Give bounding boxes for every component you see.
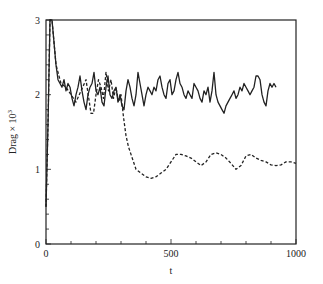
- x-axis-title: t: [170, 265, 173, 276]
- tick-labels: 050010000123: [35, 15, 306, 260]
- plot-frame: [46, 20, 296, 244]
- x-tick-label: 500: [164, 248, 179, 259]
- axis-ticks: [46, 20, 296, 244]
- series-line-solid: [46, 20, 276, 207]
- series-line-dashed: [46, 20, 296, 207]
- y-tick-label: 1: [35, 164, 40, 175]
- y-tick-label: 3: [35, 15, 40, 26]
- data-series: [46, 20, 296, 207]
- chart: 050010000123 t Drag × 103: [0, 0, 323, 284]
- y-axis-title: Drag × 103: [6, 109, 18, 154]
- x-tick-label: 0: [44, 248, 49, 259]
- y-tick-label: 0: [35, 239, 40, 250]
- x-tick-label: 1000: [286, 248, 306, 259]
- y-tick-label: 2: [35, 89, 40, 100]
